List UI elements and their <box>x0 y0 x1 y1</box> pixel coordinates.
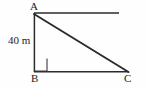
geometry-figure: A B C 40 m <box>0 0 147 90</box>
side-ac-hypotenuse <box>34 14 129 72</box>
vertex-label-b: B <box>31 73 38 84</box>
side-length-label-ab: 40 m <box>8 35 30 46</box>
vertex-label-c: C <box>124 73 131 84</box>
vertex-label-a: A <box>30 1 38 12</box>
right-angle-marker-at-b <box>35 59 47 72</box>
